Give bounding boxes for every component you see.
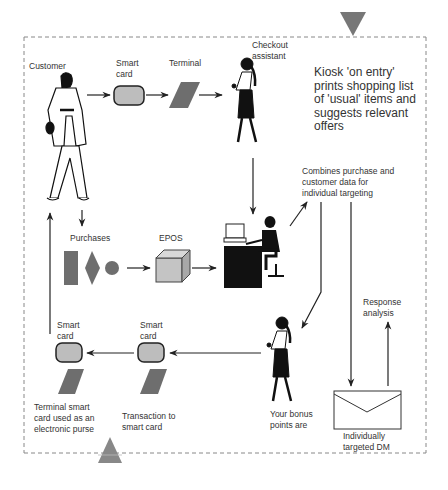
data-operator-figure-icon xyxy=(224,216,284,288)
smart-card-top-icon xyxy=(114,86,144,105)
label-terminal-purse: Terminal smart card used as an electroni… xyxy=(34,402,94,435)
label-combines: Combines purchase and customer data for … xyxy=(302,166,394,199)
label-response-analysis: Response analysis xyxy=(363,297,401,319)
label-purchases: Purchases xyxy=(70,233,110,244)
smart-card-bottom-mid-icon xyxy=(138,343,164,362)
smart-card-bottom-left-icon xyxy=(56,343,82,362)
label-smart-card-bottom-left: Smart card xyxy=(57,320,80,342)
label-customer: Customer xyxy=(29,61,66,72)
terminal-bottom-mid-icon xyxy=(140,369,167,394)
exit-triangle-icon xyxy=(98,437,122,463)
terminal-bottom-left-icon xyxy=(58,369,84,394)
label-targeted-dm: Individually targeted DM xyxy=(343,431,390,453)
purchase-diamond-icon xyxy=(85,251,100,285)
label-smart-card-top: Smart card xyxy=(116,58,139,80)
terminal-top-icon xyxy=(169,82,200,108)
epos-cube-icon xyxy=(156,250,190,282)
label-bonus-points: Your bonus points are xyxy=(270,409,313,431)
entry-triangle-icon xyxy=(340,12,366,36)
label-checkout-assistant: Checkout assistant xyxy=(252,40,288,62)
label-epos: EPOS xyxy=(159,233,183,244)
customer-figure-icon xyxy=(46,73,89,200)
purchase-ball-icon xyxy=(105,261,119,275)
label-kiosk: Kiosk 'on entry' prints shopping list of… xyxy=(314,66,416,134)
label-smart-card-bottom-mid: Smart card xyxy=(140,320,163,342)
purchase-box-icon xyxy=(64,251,78,285)
bonus-points-figure-icon xyxy=(267,317,291,401)
label-transaction: Transaction to smart card xyxy=(122,411,176,433)
envelope-dm-icon xyxy=(334,391,401,429)
checkout-assistant-figure-icon xyxy=(232,58,256,142)
label-terminal-top: Terminal xyxy=(169,58,201,69)
